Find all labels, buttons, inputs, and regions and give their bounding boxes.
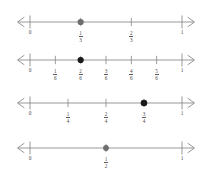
end-label: 1: [181, 30, 184, 35]
end-label: 1: [181, 156, 184, 161]
fraction-label: 14: [66, 110, 70, 126]
start-label: 0: [29, 68, 32, 73]
fraction-numerator: 3: [142, 112, 146, 117]
fraction-denominator: 4: [142, 119, 146, 124]
fraction-denominator: 6: [129, 76, 133, 81]
fraction-denominator: 6: [155, 76, 159, 81]
fraction-numerator: 3: [104, 69, 108, 74]
fraction-numerator: 1: [66, 112, 70, 117]
number-line-sixths: 011626364656: [0, 38, 210, 82]
number-lines-figure: 011323011626364656011424340112: [0, 0, 210, 179]
fraction-denominator: 4: [66, 119, 70, 124]
fraction-denominator: 6: [79, 76, 83, 81]
end-label: 1: [181, 111, 184, 116]
fraction-numerator: 2: [79, 69, 83, 74]
fraction-numerator: 5: [155, 69, 159, 74]
start-label: 0: [29, 30, 32, 35]
fraction-denominator: 6: [104, 76, 108, 81]
fraction-label: 34: [142, 110, 146, 126]
fraction-label: 12: [104, 155, 108, 171]
point-marker: [78, 57, 84, 63]
start-label: 0: [29, 111, 32, 116]
start-label: 0: [29, 156, 32, 161]
fraction-numerator: 4: [129, 69, 133, 74]
fraction-numerator: 2: [129, 31, 133, 36]
fraction-numerator: 1: [104, 157, 108, 162]
number-line-halves: 0112: [0, 126, 210, 170]
fraction-label: 24: [104, 110, 108, 126]
fraction-denominator: 2: [104, 164, 108, 169]
point-marker: [141, 100, 148, 107]
fraction-numerator: 1: [79, 31, 83, 36]
fraction-numerator: 2: [104, 112, 108, 117]
point-marker: [78, 19, 84, 25]
point-marker: [103, 145, 109, 151]
end-label: 1: [181, 68, 184, 73]
fraction-denominator: 4: [104, 119, 108, 124]
number-line-fourths: 01142434: [0, 81, 210, 125]
fraction-denominator: 6: [53, 76, 57, 81]
fraction-numerator: 1: [53, 69, 57, 74]
